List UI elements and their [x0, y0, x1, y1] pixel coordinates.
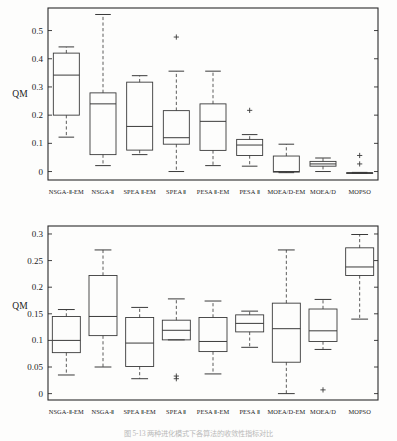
- box-iqr: [309, 309, 337, 341]
- boxplot-group: [310, 158, 336, 172]
- boxplot-group: [200, 71, 226, 165]
- y-tick-label: 0.2: [32, 282, 43, 292]
- box-iqr: [272, 303, 300, 362]
- boxplot-group: [237, 108, 263, 166]
- boxplot-chart-bottom: 00.050.10.150.20.250.3QMNSGA-Ⅱ-EMNSGA-ⅡS…: [0, 210, 397, 425]
- boxplot-chart-top: 00.10.20.30.40.5QMNSGA-Ⅱ-EMNSGA-ⅡSPEA Ⅱ-…: [0, 0, 397, 210]
- y-axis-label: QM: [12, 89, 28, 99]
- box-iqr: [163, 111, 189, 145]
- x-tick-label: SPEA Ⅱ: [166, 188, 186, 195]
- y-tick-label: 0.2: [32, 110, 43, 120]
- boxplot-svg-bottom: 00.050.10.150.20.250.3QMNSGA-Ⅱ-EMNSGA-ⅡS…: [0, 210, 397, 425]
- x-tick-label: MOPSO: [348, 408, 371, 415]
- boxplot-group: [162, 299, 190, 381]
- x-tick-label: MOEA/D: [310, 408, 336, 415]
- y-tick-label: 0.1: [32, 335, 43, 345]
- box-iqr: [273, 156, 299, 172]
- y-tick-label: 0.3: [32, 82, 44, 92]
- x-tick-label: PESA Ⅱ: [239, 188, 259, 195]
- x-tick-label: NSGA-Ⅱ: [91, 408, 114, 415]
- boxplot-group: [90, 14, 116, 165]
- box-iqr: [346, 248, 374, 276]
- box-iqr: [90, 93, 116, 155]
- box-iqr: [89, 275, 117, 335]
- boxplot-group: [347, 153, 373, 174]
- y-tick-label: 0: [39, 389, 44, 399]
- boxplot-group: [89, 250, 117, 367]
- y-tick-label: 0.1: [32, 138, 43, 148]
- x-tick-label: PESA Ⅱ-EM: [197, 408, 230, 415]
- x-tick-label: MOPSO: [348, 188, 371, 195]
- y-tick-label: 0.4: [32, 54, 44, 64]
- x-tick-label: NSGA-Ⅱ-EM: [49, 188, 84, 195]
- y-tick-label: 0.05: [27, 362, 43, 372]
- box-iqr: [199, 318, 227, 352]
- box-iqr: [127, 82, 153, 150]
- y-axis-label: QM: [12, 301, 28, 311]
- x-tick-label: MOEA/D-EM: [267, 408, 305, 415]
- box-iqr: [237, 139, 263, 155]
- boxplot-group: [346, 235, 374, 320]
- x-tick-label: MOEA/D-EM: [267, 188, 305, 195]
- x-tick-label: MOEA/D: [310, 188, 336, 195]
- x-tick-label: SPEA Ⅱ: [166, 408, 186, 415]
- boxplot-svg-top: 00.10.20.30.40.5QMNSGA-Ⅱ-EMNSGA-ⅡSPEA Ⅱ-…: [0, 0, 397, 210]
- boxplot-group: [273, 144, 299, 172]
- box-iqr: [52, 316, 80, 352]
- boxplot-group: [309, 299, 337, 392]
- y-tick-label: 0.25: [27, 256, 43, 266]
- boxplot-group: [53, 47, 79, 137]
- y-tick-label: 0.15: [27, 309, 43, 319]
- x-tick-label: NSGA-Ⅱ: [91, 188, 114, 195]
- boxplot-group: [52, 310, 80, 375]
- box-iqr: [200, 104, 226, 151]
- box-iqr: [53, 53, 79, 115]
- y-tick-label: 0.5: [32, 26, 44, 36]
- x-tick-label: SPEA Ⅱ-EM: [123, 408, 156, 415]
- figure-page: 00.10.20.30.40.5QMNSGA-Ⅱ-EMNSGA-ⅡSPEA Ⅱ-…: [0, 0, 397, 441]
- x-tick-label: NSGA-Ⅱ-EM: [49, 408, 84, 415]
- x-tick-label: SPEA Ⅱ-EM: [123, 188, 156, 195]
- box-iqr: [126, 318, 154, 367]
- y-tick-label: 0.3: [32, 229, 44, 239]
- boxplot-group: [126, 307, 154, 378]
- figure-caption: 图 5-13 两种进化模式下各算法的收敛性指标对比: [0, 427, 397, 441]
- boxplot-group: [163, 34, 189, 171]
- boxplot-group: [199, 301, 227, 374]
- y-tick-label: 0: [39, 167, 44, 177]
- x-tick-label: PESA Ⅱ-EM: [197, 188, 230, 195]
- boxplot-group: [236, 311, 264, 347]
- boxplot-group: [272, 250, 300, 394]
- x-tick-label: PESA Ⅱ: [239, 408, 259, 415]
- boxplot-group: [127, 76, 153, 155]
